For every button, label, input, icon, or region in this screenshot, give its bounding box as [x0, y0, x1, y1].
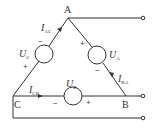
uc-minus-sign: − — [38, 38, 43, 46]
ua-plus-sign: + — [80, 40, 85, 48]
source-uc-label: UC — [19, 49, 30, 60]
source-ua-circle — [88, 46, 106, 64]
delta-circuit-diagram: A C B IAC IBA ICB UC UA UB − + + − − + — [0, 0, 156, 132]
uc-plus-sign: + — [23, 63, 28, 71]
node-c-label: C — [14, 100, 21, 110]
current-iac-label: IAC — [41, 23, 51, 34]
source-ub-label: UB — [66, 79, 77, 90]
ub-plus-sign: + — [86, 99, 91, 107]
arrow-iba-icon — [109, 72, 114, 77]
current-icb-label: ICB — [29, 85, 39, 96]
node-a-label: A — [64, 5, 71, 15]
terminal-c — [141, 116, 145, 120]
terminal-b — [141, 94, 145, 98]
source-ua-label: UA — [109, 50, 120, 61]
node-b-label: B — [122, 100, 129, 110]
source-uc-circle — [35, 45, 53, 63]
terminal-a — [141, 16, 145, 20]
ub-minus-sign: − — [53, 100, 58, 108]
current-iba-label: IBA — [118, 74, 128, 85]
ua-minus-sign: − — [95, 67, 100, 75]
